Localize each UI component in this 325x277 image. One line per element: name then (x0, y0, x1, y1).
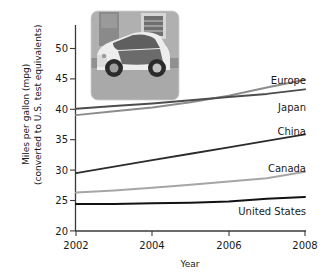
y-tick-label: 40 (55, 104, 68, 115)
series-label-japan: Japan (277, 102, 306, 113)
y-tick-label: 25 (55, 195, 68, 206)
series-label-europe: Europe (271, 75, 306, 86)
y-tick-label: 20 (55, 226, 68, 237)
x-tick-label: 2008 (292, 240, 317, 251)
smart-car-photo (91, 11, 179, 100)
series-label-canada: Canada (268, 163, 306, 174)
y-axis-title-line1: Miles per gallon (mpg) (21, 64, 31, 165)
series-label-united-states: United States (238, 206, 306, 217)
photo-car-hubcap-front (110, 64, 119, 73)
x-tick-label: 2002 (63, 240, 88, 251)
y-tick-label: 30 (55, 165, 68, 176)
x-tick-label: 2006 (216, 240, 241, 251)
x-axis-title: Year (179, 259, 199, 269)
y-axis-title-line2: (converted to U.S. test equivalents) (33, 24, 43, 185)
x-tick-label: 2004 (139, 240, 164, 251)
photo-door-panel (101, 14, 117, 28)
y-tick-label: 35 (55, 134, 68, 145)
y-tick-label: 45 (55, 73, 68, 84)
photo-road (91, 68, 179, 100)
series-label-china: China (277, 126, 306, 137)
chart-canvas: Miles per gallon (mpg) (converted to U.S… (0, 0, 325, 277)
photo-car-headlight (102, 54, 106, 58)
photo-car-hubcap-rear (153, 64, 162, 73)
y-tick-label: 50 (55, 43, 68, 54)
